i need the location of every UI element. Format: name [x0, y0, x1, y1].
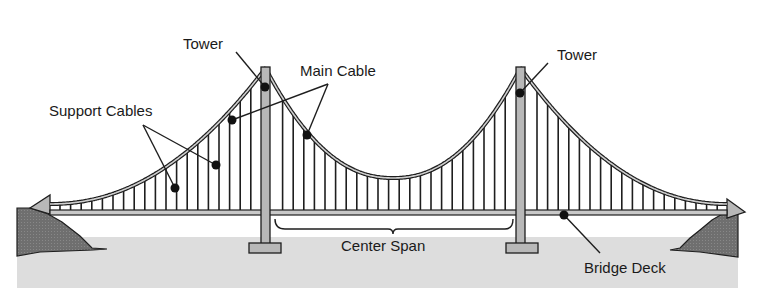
center-span-brace	[275, 219, 513, 234]
label-center-span: Center Span	[341, 238, 425, 253]
label-main-cable: Main Cable	[300, 63, 376, 78]
right-anchor	[727, 199, 745, 218]
label-tower-left: Tower	[183, 36, 223, 51]
right-bank	[670, 212, 738, 257]
bridge-deck	[50, 210, 727, 215]
label-tower-right: Tower	[557, 47, 597, 62]
support-cables	[60, 88, 717, 210]
label-bridge-deck: Bridge Deck	[584, 260, 666, 275]
label-support-cables: Support Cables	[49, 103, 152, 118]
